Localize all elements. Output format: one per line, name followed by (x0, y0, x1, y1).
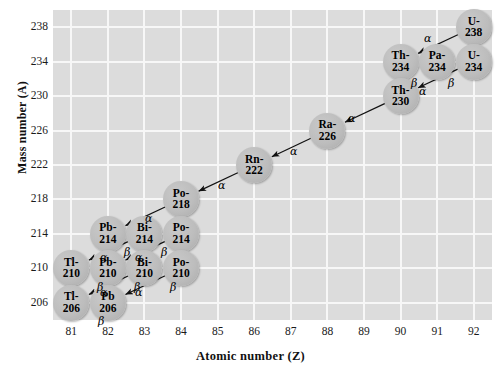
y-tick-label: 210 (8, 262, 48, 274)
decay-label-a_th230_ra226: α (348, 113, 355, 124)
decay-label-a_u234_th230: α (419, 86, 426, 97)
decay-label-a_po210_pb206: α (135, 287, 142, 298)
nuclide-mass: 234 (429, 62, 446, 74)
decay-label-a_po218_pb214: α (145, 213, 152, 224)
y-axis-title: Mass number (A) (15, 58, 30, 198)
nuclide-mass: 210 (99, 268, 116, 280)
x-tick-label: 88 (312, 326, 342, 338)
y-tick-label: 206 (8, 297, 48, 309)
nuclide-mass: 222 (246, 165, 263, 177)
nuclide-mass: 210 (136, 268, 153, 280)
nuclide-node-rn222[interactable]: Rn-222 (236, 147, 272, 183)
gridline-horizontal (53, 26, 492, 28)
x-tick-label: 86 (239, 326, 269, 338)
nuclide-symbol: U- (468, 50, 480, 62)
gridline-horizontal (53, 198, 492, 200)
nuclide-node-u238[interactable]: U-238 (456, 9, 492, 45)
decay-label-b_bi210_po210: β (170, 282, 176, 293)
nuclide-mass: 214 (136, 234, 153, 246)
x-tick-label: 87 (276, 326, 306, 338)
gridline-horizontal (53, 164, 492, 166)
nuclide-mass: 234 (465, 62, 482, 74)
gridline-vertical (290, 10, 292, 320)
x-tick-label: 91 (422, 326, 452, 338)
x-tick-label: 84 (166, 326, 196, 338)
x-axis-title: Atomic number (Z) (0, 349, 501, 364)
nuclide-node-pb206[interactable]: Pb206 (90, 285, 126, 321)
decay-label-a_bi214_tl210: α (100, 252, 107, 263)
y-tick-label: 238 (8, 21, 48, 33)
decay-label-a_po214_pb210: α (135, 252, 142, 263)
x-tick-label: 89 (349, 326, 379, 338)
decay-label-b_pb214_bi214: β (124, 247, 130, 258)
nuclide-node-tl206[interactable]: Tl-206 (53, 285, 89, 321)
nuclide-node-pa234[interactable]: Pa-234 (419, 44, 455, 80)
decay-label-b_pa234_u234: β (448, 78, 454, 89)
decay-label-a_ra226_rn222: α (290, 146, 297, 157)
decay-label-b_th234_pa234: β (411, 78, 417, 89)
nuclide-symbol: Th- (392, 50, 410, 62)
nuclide-mass: 218 (172, 199, 189, 211)
nuclide-mass: 206 (63, 303, 80, 315)
decay-chain-chart: U-238Th-234Pa-234U-234Th-230Ra-226Rn-222… (0, 0, 501, 371)
nuclide-node-th234[interactable]: Th-234 (383, 44, 419, 80)
decay-label-b_tl206_pb206: β (98, 316, 104, 327)
gridline-vertical (363, 10, 365, 320)
nuclide-node-u234[interactable]: U-234 (456, 44, 492, 80)
x-tick-label: 92 (459, 326, 489, 338)
y-tick-label: 214 (8, 228, 48, 240)
decay-label-a_u238_th234: α (424, 33, 431, 44)
nuclide-node-po214[interactable]: Po-214 (163, 216, 199, 252)
nuclide-mass: 214 (99, 234, 116, 246)
x-tick-label: 90 (386, 326, 416, 338)
nuclide-symbol: Ra- (318, 119, 336, 131)
decay-label-a_rn222_po218: α (218, 180, 225, 191)
gridline-vertical (217, 10, 219, 320)
x-tick-label: 83 (129, 326, 159, 338)
nuclide-mass: 238 (465, 27, 482, 39)
nuclide-mass: 210 (63, 268, 80, 280)
nuclide-node-pb214[interactable]: Pb-214 (90, 216, 126, 252)
x-tick-label: 85 (203, 326, 233, 338)
gridline-vertical (326, 10, 328, 320)
nuclide-node-pb210[interactable]: Pb-210 (90, 250, 126, 286)
decay-label-b_bi214_po214: β (161, 247, 167, 258)
nuclide-node-ra226[interactable]: Ra-226 (309, 113, 345, 149)
decay-label-a_bi210_tl206: α (100, 287, 107, 298)
nuclide-mass: 234 (392, 62, 409, 74)
gridline-horizontal (53, 130, 492, 132)
x-tick-label: 81 (56, 326, 86, 338)
nuclide-mass: 214 (172, 234, 189, 246)
nuclide-symbol: Pa- (429, 50, 446, 62)
nuclide-mass: 206 (99, 303, 116, 315)
nuclide-mass: 226 (319, 131, 336, 143)
nuclide-mass: 210 (172, 268, 189, 280)
nuclide-mass: 230 (392, 96, 409, 108)
